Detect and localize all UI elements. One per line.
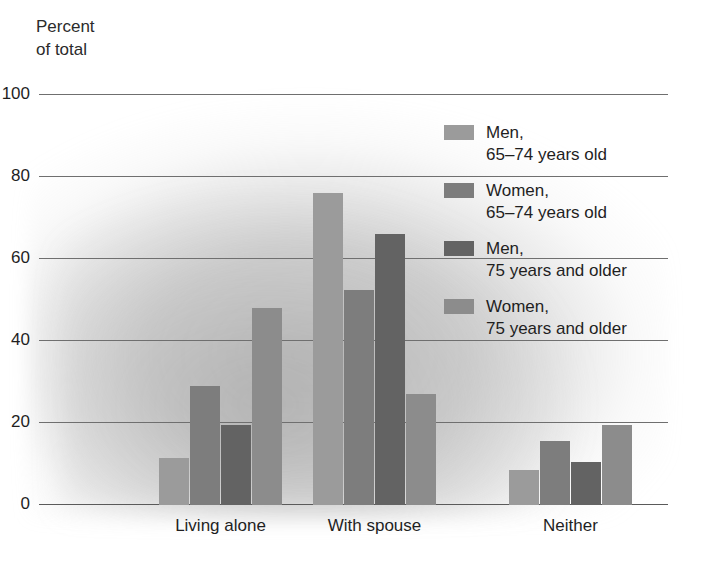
- bar-1-0: [313, 193, 343, 505]
- y-axis-tick-label-60: 60: [11, 248, 30, 268]
- y-axis-tick-label-40: 40: [11, 330, 30, 350]
- y-axis-tick-label-100: 100: [2, 84, 30, 104]
- legend-label-0: Men, 65–74 years old: [486, 122, 607, 167]
- legend-swatch-2: [444, 241, 474, 256]
- x-axis-category-label-2: Neither: [543, 516, 598, 536]
- legend-item-0: Men, 65–74 years old: [444, 122, 627, 167]
- legend-swatch-0: [444, 125, 474, 140]
- bar-chart-figure: Percent of total 020406080100 Men, 65–74…: [0, 0, 704, 569]
- x-axis-category-label-0: Living alone: [175, 516, 266, 536]
- legend-label-2: Men, 75 years and older: [486, 238, 627, 283]
- bar-1-1: [344, 290, 374, 505]
- legend-label-3: Women, 75 years and older: [486, 296, 627, 341]
- bar-0-0: [159, 458, 189, 505]
- bar-2-3: [602, 425, 632, 505]
- legend-item-3: Women, 75 years and older: [444, 296, 627, 341]
- y-axis-tick-label-20: 20: [11, 412, 30, 432]
- bar-0-3: [252, 308, 282, 505]
- bar-2-1: [540, 441, 570, 505]
- y-axis-tick-label-80: 80: [11, 166, 30, 186]
- legend-item-1: Women, 65–74 years old: [444, 180, 627, 225]
- bar-2-0: [509, 470, 539, 505]
- legend-label-1: Women, 65–74 years old: [486, 180, 607, 225]
- bar-1-2: [375, 234, 405, 505]
- legend-item-2: Men, 75 years and older: [444, 238, 627, 283]
- gridline-100: 100: [39, 94, 668, 95]
- bar-0-2: [221, 425, 251, 505]
- bar-0-1: [190, 386, 220, 505]
- y-axis-title: Percent of total: [36, 16, 95, 62]
- legend-swatch-3: [444, 299, 474, 314]
- legend-swatch-1: [444, 183, 474, 198]
- chart-legend: Men, 65–74 years oldWomen, 65–74 years o…: [444, 122, 627, 354]
- bar-2-2: [571, 462, 601, 505]
- bar-1-3: [406, 394, 436, 505]
- y-axis-tick-label-0: 0: [21, 494, 30, 514]
- x-axis-category-label-1: With spouse: [328, 516, 422, 536]
